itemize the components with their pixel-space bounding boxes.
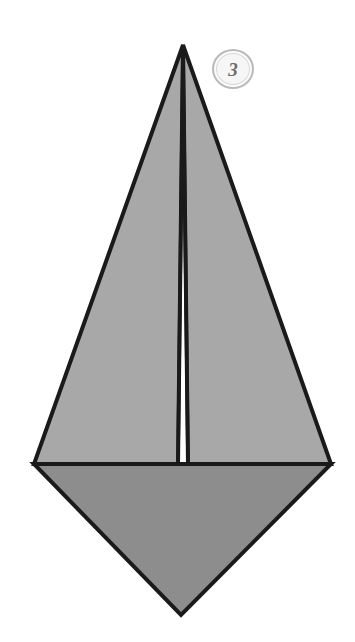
left-flap-shape <box>34 45 183 464</box>
lower-diamond-shape <box>34 464 331 615</box>
right-flap-shape <box>183 45 331 464</box>
origami-diagram-svg <box>0 0 355 642</box>
step-number-label: 3 <box>228 60 238 79</box>
step-number-badge-ring: 3 <box>216 53 250 85</box>
step-number-badge: 3 <box>212 49 254 89</box>
origami-step-figure: 3 <box>0 0 355 642</box>
